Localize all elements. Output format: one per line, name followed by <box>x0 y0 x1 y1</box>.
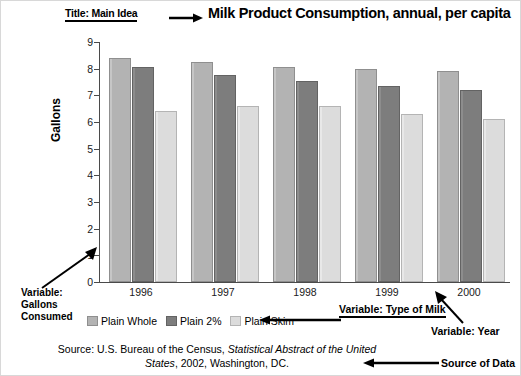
source-line-2-suffix: , 2002, Washington, DC. <box>175 357 289 369</box>
bar-1999-plain-2[interactable] <box>378 86 400 282</box>
legend-item-plain-whole[interactable]: Plain Whole <box>87 315 157 327</box>
bar-1998-plain-whole[interactable] <box>273 67 295 282</box>
type-of-milk-arrow-icon <box>259 315 341 325</box>
title-arrow-icon <box>169 13 203 23</box>
gallons-annotation-line-2: Gallons <box>21 299 73 311</box>
bar-1998-plain-2[interactable] <box>296 81 318 282</box>
y-axis-tick-label: 4 <box>76 175 93 176</box>
title-annotation-label: Title: Main Idea <box>65 7 137 22</box>
bar-2000-plain-whole[interactable] <box>437 71 459 282</box>
bar-1997-plain-2[interactable] <box>214 75 236 282</box>
y-axis-tick <box>94 202 100 203</box>
source-of-data-annotation: Source of Data <box>441 357 515 369</box>
bar-2000-plain-skim[interactable] <box>483 119 505 282</box>
y-axis-tick <box>94 229 100 230</box>
x-axis-label-1996: 1996 <box>100 286 182 298</box>
source-of-data-arrow-icon <box>363 358 439 368</box>
bar-1998-plain-skim[interactable] <box>319 106 341 282</box>
bar-1997-plain-whole[interactable] <box>191 62 213 282</box>
y-axis-tick-label: 7 <box>76 95 93 96</box>
legend-swatch-plain-2pct <box>166 316 177 326</box>
bar-1996-plain-whole[interactable] <box>109 58 131 282</box>
gallons-annotation-line-3: Consumed <box>21 311 73 323</box>
x-axis-label-1999: 1999 <box>346 286 428 298</box>
chart-title: Milk Product Consumption, annual, per ca… <box>208 5 511 21</box>
type-of-milk-annotation: Variable: Type of Milk <box>339 303 446 318</box>
source-citation: Source: U.S. Bureau of the Census, Stati… <box>57 342 377 370</box>
x-axis-label-1998: 1998 <box>264 286 346 298</box>
source-line-2-italic: States <box>145 357 175 369</box>
x-axis-label-1997: 1997 <box>182 286 264 298</box>
bar-1996-plain-2[interactable] <box>132 67 154 282</box>
y-axis-tick-label: 6 <box>76 122 93 123</box>
y-axis-tick <box>94 42 100 43</box>
y-axis-tick <box>94 175 100 176</box>
y-axis-tick-label: 5 <box>76 149 93 150</box>
y-axis-tick <box>94 69 100 70</box>
bar-1999-plain-skim[interactable] <box>401 114 423 282</box>
bar-1999-plain-whole[interactable] <box>355 69 377 282</box>
y-axis-tick <box>94 149 100 150</box>
year-variable-annotation: Variable: Year <box>431 325 500 337</box>
gallons-annotation-line-1: Variable: <box>21 287 73 299</box>
y-axis-tick-label: 9 <box>76 42 93 43</box>
legend-swatch-plain-whole <box>87 316 98 326</box>
plot-area: 0123456789 <box>100 42 510 282</box>
source-line-1-italic: Statistical Abstract of the United <box>228 343 376 355</box>
y-axis-title: Gallons <box>49 98 63 142</box>
legend-label-plain-2pct: Plain 2% <box>180 315 221 327</box>
gallons-annotation-arrow-icon <box>39 247 99 291</box>
y-axis-tick-label: 8 <box>76 69 93 70</box>
x-axis-label-2000: 2000 <box>428 286 510 298</box>
y-axis-tick <box>94 95 100 96</box>
legend-item-plain-2pct[interactable]: Plain 2% <box>166 315 221 327</box>
legend-label-plain-whole: Plain Whole <box>101 315 157 327</box>
legend-swatch-plain-skim <box>230 316 241 326</box>
y-axis-tick-label: 3 <box>76 202 93 203</box>
x-axis-line <box>99 282 510 283</box>
y-axis-tick <box>94 122 100 123</box>
bar-1997-plain-skim[interactable] <box>237 106 259 282</box>
source-line-1-prefix: Source: U.S. Bureau of the Census, <box>58 343 228 355</box>
y-axis-tick-label: 2 <box>76 229 93 230</box>
gallons-variable-annotation: Variable: Gallons Consumed <box>21 287 73 323</box>
bar-1996-plain-skim[interactable] <box>155 111 177 282</box>
bar-2000-plain-2[interactable] <box>460 90 482 282</box>
